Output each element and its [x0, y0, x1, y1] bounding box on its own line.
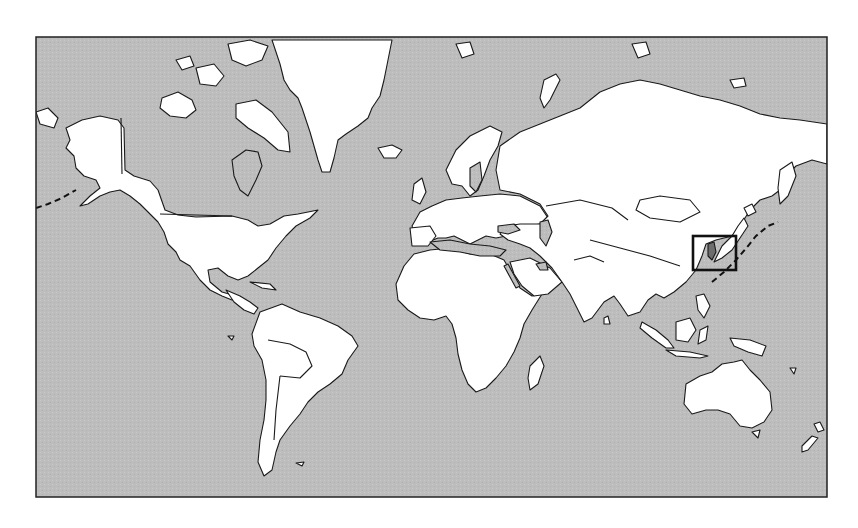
map-canvas — [0, 0, 858, 528]
world-locator-map — [0, 0, 858, 528]
